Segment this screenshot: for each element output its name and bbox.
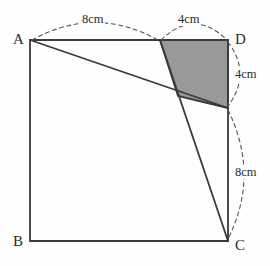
measure-label-right-upper: 4cm [234, 68, 258, 81]
measure-label-right-lower: 8cm [234, 166, 258, 179]
figure-canvas [0, 0, 270, 266]
measure-label-top-right: 4cm [177, 13, 201, 26]
vertex-label-a: A [13, 32, 24, 47]
vertex-label-d: D [235, 32, 246, 47]
dimension-arc-top-right [161, 24, 227, 40]
geometry-figure: A B C D 8cm 4cm 4cm 8cm [0, 0, 270, 266]
measure-label-top-left: 8cm [81, 13, 105, 26]
vertex-label-b: B [13, 234, 23, 249]
vertex-label-c: C [235, 238, 245, 253]
